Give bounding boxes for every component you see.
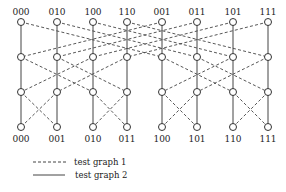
bottom-node-label: 110 <box>224 134 241 144</box>
node-circle <box>54 54 61 61</box>
node-circle <box>159 89 166 96</box>
top-labels: 000010100110001011101111 <box>12 7 276 17</box>
node-circle <box>54 124 61 131</box>
top-node-label: 111 <box>259 7 276 17</box>
node-circle <box>159 19 166 26</box>
node-circle <box>124 124 131 131</box>
top-node-label: 010 <box>48 7 65 17</box>
top-node-label: 100 <box>84 7 101 17</box>
node-circle <box>230 54 237 61</box>
bottom-node-label: 010 <box>84 134 101 144</box>
bottom-node-label: 101 <box>188 134 205 144</box>
solid-edges <box>21 22 268 127</box>
node-circle <box>265 124 272 131</box>
top-node-label: 011 <box>188 7 205 17</box>
node-circle <box>230 89 237 96</box>
top-node-label: 101 <box>224 7 241 17</box>
node-circle <box>54 19 61 26</box>
node-circle <box>194 124 201 131</box>
bottom-node-label: 011 <box>118 134 135 144</box>
legend: test graph 1 test graph 2 <box>33 157 128 180</box>
bottom-node-label: 001 <box>48 134 65 144</box>
bottom-labels: 000001010011100101110111 <box>12 134 276 144</box>
node-circle <box>54 89 61 96</box>
node-circle <box>124 54 131 61</box>
node-circle <box>90 124 97 131</box>
node-circle <box>194 89 201 96</box>
top-node-label: 000 <box>12 7 29 17</box>
node-circle <box>90 89 97 96</box>
node-circle <box>265 19 272 26</box>
node-circle <box>90 54 97 61</box>
bottom-node-label: 000 <box>12 134 29 144</box>
dashed-edges <box>21 22 268 127</box>
node-circle <box>18 124 25 131</box>
node-circle <box>18 89 25 96</box>
node-circle <box>194 19 201 26</box>
node-circle <box>265 89 272 96</box>
top-node-label: 001 <box>153 7 170 17</box>
legend-label-test-graph-2: test graph 2 <box>75 170 128 180</box>
legend-label-test-graph-1: test graph 1 <box>74 157 127 167</box>
bottom-node-label: 100 <box>153 134 170 144</box>
node-circle <box>265 54 272 61</box>
bottom-node-label: 111 <box>259 134 276 144</box>
node-circle <box>18 54 25 61</box>
node-circle <box>159 124 166 131</box>
node-circle <box>194 54 201 61</box>
node-circle <box>18 19 25 26</box>
node-circle <box>124 19 131 26</box>
top-node-label: 110 <box>118 7 135 17</box>
butterfly-diagram: 000010100110001011101111 000001010011100… <box>0 0 286 192</box>
node-circle <box>230 19 237 26</box>
node-circle <box>124 89 131 96</box>
node-circle <box>90 19 97 26</box>
node-circle <box>230 124 237 131</box>
node-circle <box>159 54 166 61</box>
